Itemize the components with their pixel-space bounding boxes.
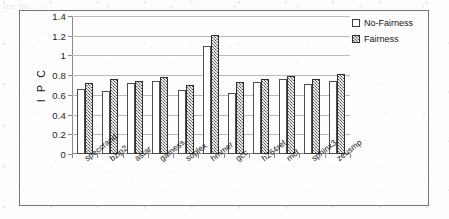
- y-tick-label: 1.4: [52, 11, 66, 22]
- legend-entry: Fairness: [352, 34, 426, 44]
- y-tick-label: 0.8: [52, 70, 66, 81]
- bar-group: [173, 16, 198, 154]
- bar-fairness: [135, 81, 143, 154]
- bar-group: [299, 16, 324, 154]
- bar-no-fairness: [203, 46, 211, 154]
- bar-fairness: [312, 79, 320, 154]
- legend-label: No-Fairness: [364, 18, 413, 28]
- bar-no-fairness: [127, 83, 135, 154]
- bar-group: [274, 16, 299, 154]
- y-tick-label: 1: [61, 50, 66, 61]
- bar-no-fairness: [304, 84, 312, 154]
- y-tick-label: 0.4: [52, 109, 66, 120]
- bar-fairness: [160, 77, 168, 154]
- bar-fairness: [236, 82, 244, 154]
- legend-label: Fairness: [364, 34, 399, 44]
- bar-fairness: [337, 74, 345, 154]
- bar-no-fairness: [253, 82, 261, 154]
- y-axis-title-label: I P C: [35, 68, 47, 102]
- legend-swatch: [352, 35, 360, 43]
- legend-entry: No-Fairness: [352, 18, 426, 28]
- y-axis-title: I P C: [34, 16, 48, 154]
- bar-fairness: [287, 76, 295, 154]
- bar-group: [72, 16, 97, 154]
- y-tick-label: 0.6: [52, 89, 66, 100]
- bar-group: [198, 16, 223, 154]
- y-tick-label: 1.2: [52, 30, 66, 41]
- bar-no-fairness: [77, 89, 85, 154]
- y-tick-label: 0: [61, 149, 66, 160]
- chart-legend: No-FairnessFairness: [352, 18, 426, 50]
- bar-group: [325, 16, 350, 154]
- bar-group: [148, 16, 173, 154]
- bar-fairness: [186, 85, 194, 154]
- chart-page: the the I P C 00.20.40.60.811.21.4 specc…: [0, 0, 449, 219]
- bar-fairness: [211, 35, 219, 154]
- bar-group: [224, 16, 249, 154]
- bar-fairness: [261, 79, 269, 154]
- bar-fairness: [85, 83, 93, 154]
- x-axis-tick-labels: speccrandbzip2astargamesssoplexhmmergcch…: [72, 156, 350, 204]
- y-tick-label: 0.2: [52, 129, 66, 140]
- bar-group: [123, 16, 148, 154]
- legend-swatch: [352, 19, 360, 27]
- bar-group: [249, 16, 274, 154]
- bar-no-fairness: [152, 81, 160, 154]
